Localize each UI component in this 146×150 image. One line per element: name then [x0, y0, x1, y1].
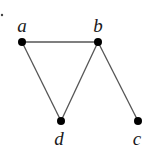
node-a [18, 38, 26, 46]
node-b [94, 38, 102, 46]
label-d: d [54, 128, 64, 149]
label-b: b [93, 15, 103, 36]
edge-b-c [98, 42, 138, 121]
graph-diagram: a b d c [0, 0, 146, 150]
node-d [57, 117, 65, 125]
edge-d-b [61, 42, 98, 121]
label-a: a [17, 15, 27, 36]
edge-a-d [22, 42, 61, 121]
edges [22, 42, 138, 121]
marker-dot [1, 14, 3, 16]
label-c: c [133, 128, 142, 149]
node-c [134, 117, 142, 125]
